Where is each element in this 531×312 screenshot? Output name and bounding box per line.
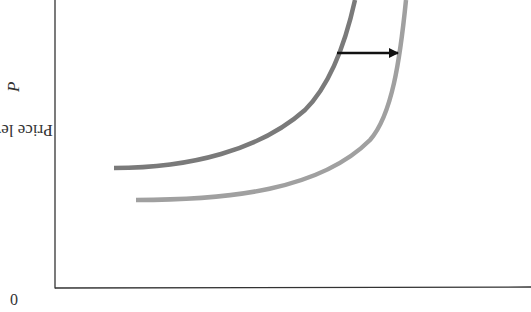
x-axis [55, 287, 531, 288]
shifted-curve [136, 0, 406, 200]
original-curve [114, 0, 355, 168]
chart-plot [0, 0, 531, 312]
